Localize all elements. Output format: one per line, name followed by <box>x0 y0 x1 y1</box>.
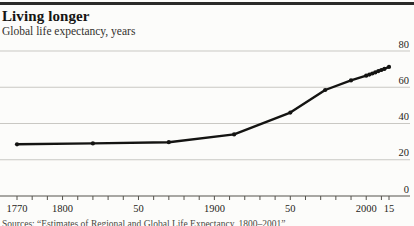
data-point-marker <box>323 88 327 92</box>
source-line: Sources: “Estimates of Regional and Glob… <box>2 219 286 226</box>
y-tick-label: 0 <box>404 184 409 195</box>
y-tick-label: 40 <box>399 111 410 122</box>
y-tick-label: 80 <box>399 39 410 50</box>
data-point-marker <box>91 141 95 145</box>
data-line <box>17 67 389 144</box>
x-tick-label: 50 <box>133 203 144 214</box>
x-tick-label: 1800 <box>52 203 73 214</box>
data-point-marker <box>349 78 353 82</box>
data-point-marker <box>387 65 391 69</box>
x-tick-label: 15 <box>384 203 395 214</box>
data-point-marker <box>15 142 19 146</box>
y-tick-label: 20 <box>399 147 410 158</box>
economist-chart-card: Living longer Global life expectancy, ye… <box>0 0 414 226</box>
data-point-marker <box>167 140 171 144</box>
y-tick-label: 60 <box>399 75 410 86</box>
x-tick-label: 1770 <box>7 203 28 214</box>
data-point-marker <box>232 132 236 136</box>
x-tick-label: 2000 <box>356 203 377 214</box>
x-tick-label: 1900 <box>204 203 225 214</box>
data-point-marker <box>382 67 386 71</box>
data-point-marker <box>288 111 292 115</box>
life-expectancy-chart: 0204060801770180050190050200015 <box>0 0 414 226</box>
x-tick-label: 50 <box>285 203 296 214</box>
